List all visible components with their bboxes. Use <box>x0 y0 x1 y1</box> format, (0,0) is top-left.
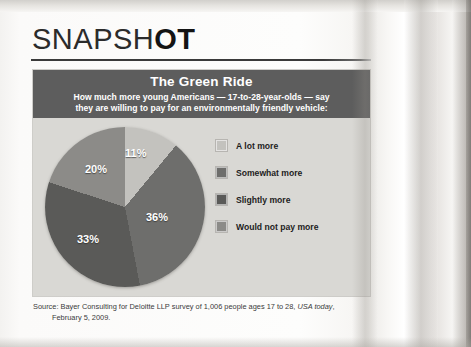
chart-card: The Green Ride How much more young Ameri… <box>33 70 370 296</box>
source-citation: Source: Bayer Consulting for Deloitte LL… <box>33 302 363 323</box>
legend-swatch-icon-slightly-more <box>216 194 227 205</box>
legend-label-somewhat-more: Somewhat more <box>236 168 302 178</box>
legend-swatch-icon-would-not-pay-more <box>216 221 227 232</box>
source-text-post: , <box>333 302 335 311</box>
pie-chart: 11% 36% 33% 20% <box>45 127 205 287</box>
chart-subtitle-line-2: they are willing to pay for an environme… <box>33 103 370 114</box>
chart-title: The Green Ride <box>33 74 370 90</box>
legend-swatch-icon-somewhat-more <box>216 167 227 178</box>
page-edge <box>466 0 471 347</box>
page-title: SNAPSHOT <box>32 23 196 56</box>
pie-slice-label-somewhat-more: 36% <box>146 211 168 223</box>
masthead-light-text: SNAPSH <box>32 23 154 55</box>
legend-label-a-lot-more: A lot more <box>236 141 278 151</box>
source-date: February 5, 2009. <box>33 313 363 324</box>
pie-slice-label-a-lot-more: 11% <box>125 147 146 159</box>
pie-slice-label-would-not-pay-more: 20% <box>85 163 107 175</box>
scanned-page: SNAPSHOT The Green Ride How much more yo… <box>0 0 471 347</box>
masthead-bold-text: OT <box>154 23 195 55</box>
page-fold-left-shadow <box>352 0 378 347</box>
page-fold-center-shadow <box>404 0 438 347</box>
chart-header: The Green Ride How much more young Ameri… <box>33 70 370 118</box>
masthead-rule <box>31 59 371 61</box>
legend-item-would-not-pay-more: Would not pay more <box>216 213 362 240</box>
source-text-pre: Source: Bayer Consulting for Deloitte LL… <box>33 302 297 311</box>
scan-top-shadow <box>0 0 471 12</box>
chart-subtitle-line-1: How much more young Americans — 17-to-28… <box>33 92 370 103</box>
source-publication: USA today <box>297 302 332 311</box>
legend-item-a-lot-more: A lot more <box>216 132 362 159</box>
legend-item-slightly-more: Slightly more <box>216 186 362 213</box>
scan-bottom-shadow <box>0 337 471 347</box>
pie-slice-label-slightly-more: 33% <box>77 233 99 245</box>
legend-item-somewhat-more: Somewhat more <box>216 159 362 186</box>
legend-label-would-not-pay-more: Would not pay more <box>236 222 318 232</box>
legend-swatch-icon-a-lot-more <box>216 140 227 151</box>
chart-legend: A lot more Somewhat more Slightly more W… <box>216 132 362 240</box>
legend-label-slightly-more: Slightly more <box>236 195 290 205</box>
